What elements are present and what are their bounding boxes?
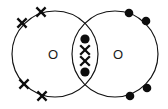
dot-lower-right-outer (143, 84, 152, 93)
diagram-canvas: O O (0, 0, 168, 109)
dot-bottom-right (126, 92, 135, 101)
right-atom-outer-electrons (125, 9, 152, 101)
cross-lower-left-outer (19, 79, 28, 88)
right-atom-label: O (113, 47, 123, 62)
shared-cross-lower (80, 56, 90, 66)
left-atom-label: O (48, 47, 58, 62)
shared-dot-bottom (80, 67, 89, 76)
shared-cross-upper (80, 45, 90, 55)
dot-top-right (125, 9, 134, 18)
shared-electron-region (80, 34, 90, 76)
shared-dot-top (80, 34, 89, 43)
left-atom-outer-electrons (17, 7, 46, 100)
dot-upper-right-outer (142, 17, 151, 26)
dot-and-cross-diagram: O O (0, 0, 168, 109)
